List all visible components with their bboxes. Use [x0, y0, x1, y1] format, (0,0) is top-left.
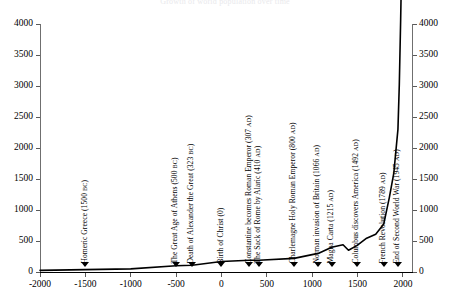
- event-label-great-age-athens: The Great Age of Athens (500 BC): [172, 157, 180, 263]
- event-label-era: AD: [314, 147, 321, 156]
- event-label-tail: ): [326, 190, 335, 193]
- event-label-text: Constantine becomes Roman Emperor (307: [244, 127, 253, 264]
- event-label-era: AD: [352, 142, 359, 151]
- event-label-text: French Revolution (1789: [378, 184, 387, 263]
- event-label-text: Death of Alexander the Great (323: [187, 155, 196, 264]
- event-label-norman-invasion: Norman invasion of Britain (1066 AD): [314, 145, 322, 264]
- event-label-era: AD: [394, 152, 401, 161]
- event-label-era: AD: [245, 118, 252, 127]
- event-label-french-revolution: French Revolution (1789 AD): [379, 172, 387, 263]
- event-label-text: Norman invasion of Britain (1066: [313, 157, 322, 264]
- event-label-text: Magna Carta (1215: [326, 202, 335, 264]
- event-label-tail: ): [351, 139, 360, 142]
- event-label-tail: ): [171, 157, 180, 160]
- event-label-magna-carta: Magna Carta (1215 AD): [327, 190, 335, 264]
- event-label-tail: ): [378, 172, 387, 175]
- event-label-text: End of Second World War (1945: [393, 161, 402, 264]
- event-label-text: Birth of Christ (0): [216, 208, 225, 264]
- event-label-birth-of-christ: Birth of Christ (0): [217, 208, 225, 264]
- event-label-era: AD: [254, 148, 261, 157]
- event-label-era: BC: [172, 160, 179, 169]
- population-growth-chart: Growth of world population over time 050…: [0, 0, 450, 301]
- event-label-era: AD: [327, 193, 334, 202]
- event-label-era: BC: [81, 183, 88, 192]
- event-label-text: Columbus discovers America (1492: [351, 151, 360, 264]
- event-label-era: AD: [290, 125, 297, 134]
- event-label-text: Charlemagne Holy Roman Emperor (800: [289, 134, 298, 263]
- event-label-era: BC: [188, 146, 195, 155]
- event-label-text: The Sack of Rome by Alaric (410: [253, 158, 262, 264]
- event-label-tail: ): [313, 145, 322, 148]
- event-label-tail: ): [253, 146, 262, 149]
- event-label-tail: ): [393, 149, 402, 152]
- event-label-text: Homeric Greece (1500: [80, 191, 89, 264]
- event-label-tail: ): [244, 115, 253, 118]
- event-label-constantine-emperor: Constantine becomes Roman Emperor (307 A…: [245, 115, 253, 264]
- event-label-era: AD: [379, 175, 386, 184]
- event-label-death-of-alexander: Death of Alexander the Great (323 BC): [188, 144, 196, 264]
- event-label-sack-of-rome: The Sack of Rome by Alaric (410 AD): [254, 146, 262, 264]
- event-label-text: The Great Age of Athens (500: [171, 169, 180, 264]
- event-label-tail: ): [289, 122, 298, 125]
- event-label-homeric-greece: Homeric Greece (1500 BC): [81, 180, 89, 264]
- event-label-end-second-world-war: End of Second World War (1945 AD): [394, 149, 402, 263]
- event-label-columbus-america: Columbus discovers America (1492 AD): [352, 139, 360, 263]
- event-label-charlemagne: Charlemagne Holy Roman Emperor (800 AD): [290, 122, 298, 263]
- event-label-tail: ): [80, 180, 89, 183]
- event-label-tail: ): [187, 144, 196, 147]
